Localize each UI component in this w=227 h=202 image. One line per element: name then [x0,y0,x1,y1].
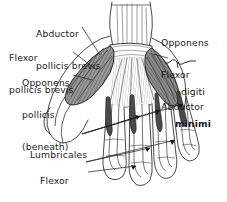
leader-lines-fdp [86,140,175,172]
anatomical-figure: Abductor pollicis brevis Flexor pollicis… [0,0,227,202]
label-flexor-digitorum-profundus: Flexor digitorum profundus [40,155,88,202]
label-digiti-minimi: digiti minimi [165,66,221,151]
